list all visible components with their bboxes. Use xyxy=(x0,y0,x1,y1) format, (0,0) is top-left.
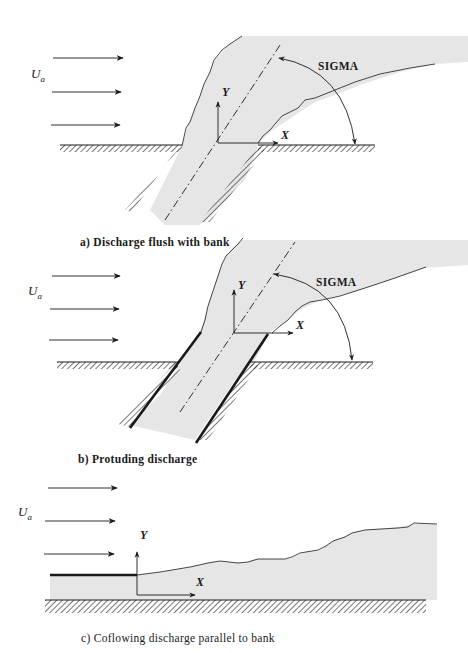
caption-b: b) Protuding discharge xyxy=(78,453,197,465)
plume-a xyxy=(150,36,468,225)
caption-c: c) Coflowing discharge parallel to bank xyxy=(81,632,275,644)
caption-a: a) Discharge flush with bank xyxy=(80,236,230,248)
freestream-label-c: Ua xyxy=(18,504,32,522)
freestream-symbol: U xyxy=(28,283,37,298)
freestream-label-a: Ua xyxy=(31,66,45,84)
freestream-symbol: U xyxy=(18,504,27,519)
discharge-configurations-diagram xyxy=(0,0,468,653)
panel-c xyxy=(44,488,437,613)
sigma-label-a: SIGMA xyxy=(318,60,358,72)
x-axis-label-b: X xyxy=(296,318,304,333)
bank-hatch-c xyxy=(45,600,426,613)
freestream-subscript: a xyxy=(37,291,42,301)
panel-b xyxy=(49,238,468,443)
freestream-subscript: a xyxy=(27,512,32,522)
bank-hatch-left-a xyxy=(60,145,182,152)
freestream-label-b: Ua xyxy=(28,283,42,301)
bank-hatch-left-b xyxy=(57,362,178,369)
y-axis-label-c: Y xyxy=(140,528,147,543)
plume-c xyxy=(50,524,437,600)
x-axis-label-a: X xyxy=(281,128,289,143)
y-axis-label-a: Y xyxy=(222,85,229,100)
bank-hatch-right-b xyxy=(250,362,373,369)
sigma-label-b: SIGMA xyxy=(316,276,356,288)
panel-a xyxy=(51,36,468,225)
bank-hatch-right-a xyxy=(258,145,375,152)
freestream-symbol: U xyxy=(31,66,40,81)
y-axis-label-b: Y xyxy=(238,278,245,293)
x-axis-label-c: X xyxy=(196,575,204,590)
freestream-subscript: a xyxy=(40,74,45,84)
